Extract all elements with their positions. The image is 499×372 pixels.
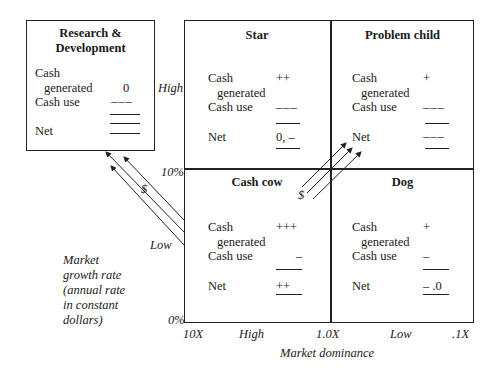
x-tick-high: High <box>239 327 264 341</box>
problem-child-title: Problem child <box>331 28 474 43</box>
y-axis-label: Market growth rate (annual rate in const… <box>63 253 125 328</box>
rd-title-2: Development <box>27 41 154 56</box>
y-tick-zero: 0% <box>168 313 185 327</box>
dog-rule-1 <box>423 269 449 270</box>
cash-cow-title: Cash cow <box>184 175 330 190</box>
y-tick-high: High <box>158 81 183 95</box>
y-tick-low: Low <box>150 238 172 252</box>
star-rule-2 <box>276 148 300 149</box>
rd-cash-label: Cash <box>35 66 60 80</box>
rd-rule-2 <box>110 123 140 124</box>
dog-net-value: – .0 <box>423 279 442 293</box>
rd-cash-use-label: Cash use <box>35 95 80 109</box>
rd-rule-3 <box>110 133 140 134</box>
y-tick-10pct: 10% <box>161 165 184 179</box>
dog-generated-value: + <box>423 220 430 234</box>
rd-cash-use-value: ___ <box>111 90 133 104</box>
rd-box: Research & Development Cash generated 0 … <box>26 20 155 151</box>
quadrant-dog: Dog Cash + generated Cash use – Net – .0 <box>331 169 474 323</box>
rd-generated-label: generated <box>44 81 93 95</box>
problem-child-generated-label: generated <box>361 86 410 100</box>
x-tick-10x: 10X <box>183 327 203 341</box>
star-cash-label: Cash <box>208 71 233 85</box>
star-net-value: 0, – <box>276 130 295 144</box>
star-cash-use-label: Cash use <box>208 100 253 114</box>
quadrant-problem-child: Problem child Cash + generated Cash use … <box>331 20 474 168</box>
problem-child-cash-label: Cash <box>352 71 377 85</box>
problem-child-net-value: ___ <box>423 125 445 139</box>
cash-cow-generated-label: generated <box>217 235 266 249</box>
dog-net-label: Net <box>352 279 370 293</box>
star-generated-label: generated <box>217 86 266 100</box>
cash-cow-rule-1 <box>276 269 302 270</box>
cash-cow-net-value: ++ <box>276 279 290 293</box>
dog-rule-2 <box>423 294 449 295</box>
x-tick-low: Low <box>390 327 412 341</box>
problem-child-net-label: Net <box>352 130 370 144</box>
dog-title: Dog <box>331 175 474 190</box>
dog-cash-use-label: Cash use <box>352 249 397 263</box>
problem-child-rule-1 <box>425 123 449 124</box>
problem-child-rule-2 <box>425 148 449 149</box>
star-net-label: Net <box>208 130 226 144</box>
dog-cash-use-value: – <box>423 249 429 263</box>
problem-child-arrow-dollar-label: $ <box>298 188 304 202</box>
x-axis-label: Market dominance <box>280 346 374 360</box>
cash-cow-cash-label: Cash <box>208 220 233 234</box>
cash-cow-rule-2 <box>276 294 302 295</box>
x-tick-1x: 1.0X <box>316 327 339 341</box>
cash-cow-cash-use-value: – <box>296 249 302 263</box>
cash-cow-net-label: Net <box>208 279 226 293</box>
star-rule-1 <box>276 123 300 124</box>
rd-rule-1 <box>110 114 140 115</box>
cash-cow-cash-use-label: Cash use <box>208 249 253 263</box>
rd-net-label: Net <box>35 124 53 138</box>
star-generated-value: ++ <box>276 71 290 85</box>
problem-child-cash-use-value: ___ <box>423 96 445 110</box>
rd-arrow-dollar-label: $ <box>141 182 147 196</box>
star-cash-use-value: ___ <box>276 96 298 110</box>
quadrant-star: Star Cash ++ generated Cash use ___ Net … <box>184 20 330 168</box>
quadrant-cash-cow: Cash cow Cash +++ generated Cash use – N… <box>184 169 330 323</box>
problem-child-cash-use-label: Cash use <box>352 100 397 114</box>
cash-cow-generated-value: +++ <box>276 220 297 234</box>
star-title: Star <box>184 28 330 43</box>
problem-child-generated-value: + <box>423 71 430 85</box>
x-tick-0.1x: .1X <box>452 327 469 341</box>
dog-generated-label: generated <box>361 235 410 249</box>
dog-cash-label: Cash <box>352 220 377 234</box>
rd-title-1: Research & <box>27 26 154 41</box>
